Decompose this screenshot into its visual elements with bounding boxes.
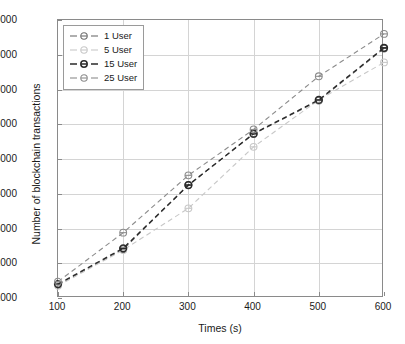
chart-figure: Number of blockchain transactions Times …: [0, 0, 405, 344]
y-tick-label: 7000: [0, 83, 17, 94]
x-tick-label: 200: [100, 301, 144, 312]
legend-sample-icon: [69, 58, 99, 70]
legend-item-1-user[interactable]: 1 User: [69, 29, 137, 43]
legend: 1 User5 User15 User25 User: [63, 25, 144, 90]
legend-item-5-user[interactable]: 5 User: [69, 43, 137, 57]
x-tick-label: 100: [35, 301, 79, 312]
x-tick-label: 400: [231, 301, 275, 312]
x-tick-label: 300: [165, 301, 209, 312]
y-tick-label: 3000: [0, 222, 17, 233]
x-axis-title: Times (s): [57, 322, 383, 334]
x-tick-mark: [384, 292, 385, 296]
legend-label: 1 User: [104, 30, 132, 42]
y-tick-label: 4000: [0, 187, 17, 198]
series-5-user: [55, 59, 388, 289]
y-tick-label: 1000: [0, 292, 17, 303]
y-tick-label: 5000: [0, 153, 17, 164]
y-tick-label: 2000: [0, 257, 17, 268]
y-tick-label: 8000: [0, 48, 17, 59]
y-axis-title: Number of blockchain transactions: [30, 34, 42, 294]
legend-item-25-user[interactable]: 25 User: [69, 71, 137, 85]
x-tick-label: 500: [296, 301, 340, 312]
y-tick-mark: [58, 298, 62, 299]
y-tick-label: 9000: [0, 14, 17, 25]
legend-sample-icon: [69, 44, 99, 56]
series-line: [58, 62, 384, 285]
x-tick-label: 600: [361, 301, 405, 312]
legend-label: 25 User: [104, 72, 137, 84]
legend-label: 5 User: [104, 44, 132, 56]
legend-sample-icon: [69, 30, 99, 42]
y-tick-label: 6000: [0, 118, 17, 129]
legend-label: 15 User: [104, 58, 137, 70]
legend-sample-icon: [69, 72, 99, 84]
legend-item-15-user[interactable]: 15 User: [69, 57, 137, 71]
